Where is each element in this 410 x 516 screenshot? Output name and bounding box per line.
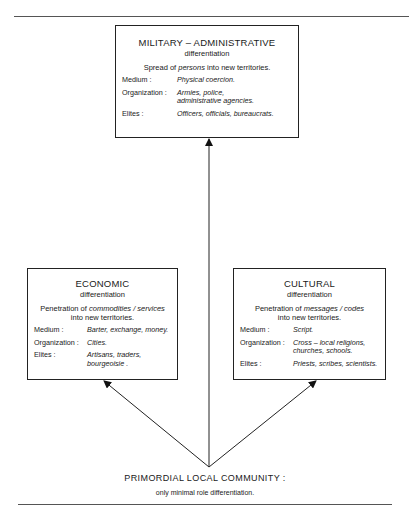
desc-text: into new territories. xyxy=(71,313,134,322)
row-value: bourgeoisie . xyxy=(87,359,128,368)
row-label: Organization : xyxy=(34,339,87,348)
row-value: Script. xyxy=(293,326,313,335)
economic-description: Penetration of commodities / servicesint… xyxy=(34,304,171,322)
desc-text: Spread of xyxy=(144,63,179,72)
cultural-box: CULTURAL differentiation Penetration of … xyxy=(233,268,386,380)
row-label: Elites : xyxy=(34,351,87,368)
cultural-subtitle: differentiation xyxy=(240,290,379,299)
cultural-elites-row: Elites :Priests, scribes, scientists. xyxy=(240,360,379,369)
primordial-community-title: PRIMORDIAL LOCAL COMMUNITY : xyxy=(0,473,410,483)
cultural-medium-row: Medium :Script. xyxy=(240,326,379,335)
military-medium-row: Medium :Physical coercion. xyxy=(122,76,292,85)
military-administrative-box: MILITARY – ADMINISTRATIVE differentiatio… xyxy=(115,25,299,138)
desc-emphasis: commodities / services xyxy=(89,304,165,313)
economic-title: ECONOMIC xyxy=(34,278,171,289)
cultural-description: Penetration of messages / codesinto new … xyxy=(240,304,379,322)
row-label: Elites : xyxy=(240,360,293,369)
economic-medium-row: Medium :Barter, exchange, money. xyxy=(34,326,171,335)
military-elites-row: Elites :Officers, officials, bureaucrats… xyxy=(122,110,292,119)
row-label: Elites : xyxy=(122,110,177,119)
row-label: Medium : xyxy=(122,76,177,85)
cultural-title: CULTURAL xyxy=(240,278,379,289)
economic-organization-row: Organization :Cities. xyxy=(34,339,171,348)
row-value: Priests, scribes, scientists. xyxy=(293,360,377,369)
row-value: Physical coercion. xyxy=(177,76,235,85)
row-value: Barter, exchange, money. xyxy=(87,326,168,335)
row-label: Medium : xyxy=(240,326,293,335)
military-title: MILITARY – ADMINISTRATIVE xyxy=(122,37,292,48)
economic-box: ECONOMIC differentiation Penetration of … xyxy=(27,268,178,380)
desc-text: into new territories. xyxy=(278,313,341,322)
bottom-rule xyxy=(18,504,392,505)
row-value: Officers, officials, bureaucrats. xyxy=(177,110,274,119)
desc-text: into new territories. xyxy=(205,63,270,72)
row-value: administrative agencies. xyxy=(177,96,254,105)
row-label: Organization : xyxy=(240,339,293,356)
desc-emphasis: persons xyxy=(178,63,205,72)
row-label: Organization : xyxy=(122,89,177,106)
arrow-to-cultural xyxy=(209,381,316,467)
desc-emphasis: messages / codes xyxy=(304,304,364,313)
economic-elites-row: Elites :Artisans, traders,bourgeoisie . xyxy=(34,351,171,368)
desc-text: Penetration of xyxy=(40,304,89,313)
military-organization-row: Organization :Armies, police,administrat… xyxy=(122,89,292,106)
arrow-to-economic xyxy=(104,381,209,467)
military-subtitle: differentiation xyxy=(122,49,292,58)
economic-subtitle: differentiation xyxy=(34,290,171,299)
military-description: Spread of persons into new territories. xyxy=(122,63,292,72)
cultural-organization-row: Organization :Cross – local religions,ch… xyxy=(240,339,379,356)
row-label: Medium : xyxy=(34,326,87,335)
desc-text: Penetration of xyxy=(255,304,304,313)
row-value: Cities. xyxy=(87,339,107,348)
primordial-community-subtitle: only minimal role differentiation. xyxy=(0,489,410,496)
row-value: churches, schools. xyxy=(293,346,353,355)
